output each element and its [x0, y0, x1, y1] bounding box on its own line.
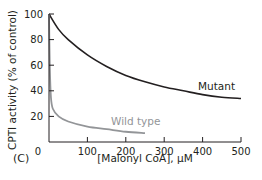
y-tick-label: 100	[24, 9, 43, 20]
y-tick-label: 80	[30, 34, 43, 45]
panel-label: (C)	[13, 152, 29, 165]
chart: 020406080100100200300400500 CPTI activit…	[0, 0, 262, 180]
x-axis-title: [Malonyl CoA], µM	[97, 152, 193, 164]
series-label-mutant: Mutant	[198, 80, 235, 92]
y-tick-label: 40	[30, 85, 43, 96]
y-tick-label: 20	[30, 111, 43, 122]
y-tick-label: 0	[35, 146, 41, 157]
y-tick-label: 60	[30, 60, 43, 71]
x-tick-label: 100	[78, 146, 97, 157]
y-axis-title: CPTI activity (% of control)	[6, 10, 18, 150]
x-tick-label: 400	[193, 146, 212, 157]
series-label-wild-type: Wild type	[111, 115, 160, 127]
x-tick-label: 500	[231, 146, 250, 157]
